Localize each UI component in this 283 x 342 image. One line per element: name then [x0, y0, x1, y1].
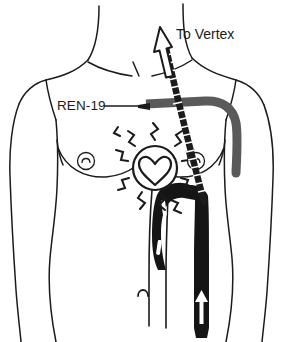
flank-left-line: [49, 120, 57, 342]
vessel-thin-mid: [166, 196, 168, 328]
great-vessels-group: [149, 183, 209, 338]
arm-right-outer-line: [262, 105, 273, 342]
vessel-descending-taper: [194, 328, 209, 338]
sensation-zigzag-icon: [114, 127, 120, 136]
sensation-zigzag-icon: [138, 192, 145, 209]
sensation-zigzag-icon: [151, 123, 158, 140]
navel-icon: [138, 290, 148, 296]
sensation-zigzag-icon: [171, 200, 181, 213]
flank-right-line: [224, 120, 232, 342]
to-vertex-label: To Vertex: [176, 27, 234, 41]
sternal-notch-tick: [133, 62, 139, 76]
nipple-left: [78, 153, 95, 170]
vessel-thin-left: [149, 190, 152, 326]
sensation-zigzag-icon: [118, 178, 129, 190]
ren19-label: REN-19: [57, 99, 106, 113]
sensation-zigzag-icon: [175, 131, 182, 146]
anatomical-figure: [0, 0, 283, 342]
neck-left-line: [88, 6, 99, 60]
heart-icon: [133, 146, 177, 190]
pectoral-left-fold: [58, 148, 136, 177]
sensation-zigzag-icon: [116, 150, 128, 161]
clavicle-left-line: [88, 62, 132, 76]
diagram-canvas: To Vertex REN-19: [0, 0, 283, 342]
sensation-zigzag-icon: [128, 131, 135, 146]
armpit-left-line: [46, 80, 56, 120]
arm-left-outer-line: [10, 104, 21, 342]
